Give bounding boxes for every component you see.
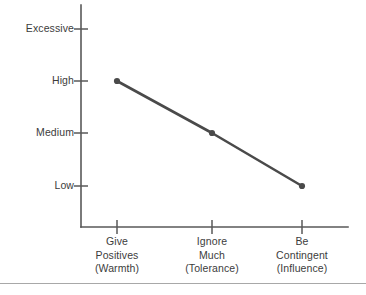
data-point-marker-1 bbox=[114, 78, 120, 84]
y-tick-label-low: Low bbox=[54, 180, 74, 191]
data-point-marker-3 bbox=[299, 183, 305, 189]
footer-divider-rule bbox=[0, 283, 366, 284]
y-tick-label-medium: Medium bbox=[36, 127, 74, 138]
x-tick-label-line-2: Contingent bbox=[232, 249, 366, 263]
y-tick-label-excessive: Excessive bbox=[26, 23, 74, 34]
data-point-marker-2 bbox=[209, 130, 215, 136]
x-tick-label-line-3: (Influence) bbox=[232, 262, 366, 276]
chart-figure: Excessive High Medium Low Give Positives… bbox=[0, 0, 366, 295]
y-tick-label-high: High bbox=[52, 75, 74, 86]
x-tick-label-be-contingent: Be Contingent (Influence) bbox=[232, 235, 366, 276]
x-tick-label-line-1: Be bbox=[232, 235, 366, 249]
